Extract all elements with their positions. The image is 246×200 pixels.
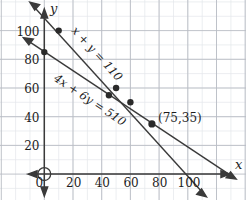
x-tick-label: 60 <box>123 176 138 190</box>
x-tick-label: 80 <box>152 176 167 190</box>
x-tick-label: 100 <box>178 176 201 190</box>
y-tick-label: 40 <box>24 111 39 125</box>
y-axis-label: y <box>49 1 58 16</box>
x-tick-label: 40 <box>95 176 110 190</box>
intersection-marker <box>148 120 155 127</box>
y-tick-label: 60 <box>24 82 39 96</box>
y-tick-label: 20 <box>24 139 39 153</box>
point-marker <box>56 27 62 33</box>
x-tick-label: 20 <box>66 176 81 190</box>
y-tick-label: 80 <box>24 53 39 67</box>
point-marker <box>113 85 119 91</box>
x-tick-label: 0 <box>36 176 44 190</box>
graph-figure: 0 20 40 60 80 100 20 40 60 80 100 y x x … <box>0 0 246 200</box>
point-marker <box>106 92 112 98</box>
point-marker <box>41 49 47 55</box>
y-tick-label: 100 <box>17 25 40 39</box>
intersection-label: (75,35) <box>158 111 202 125</box>
x-axis-label: x <box>235 157 243 172</box>
coordinate-plane-svg: 0 20 40 60 80 100 20 40 60 80 100 y x x … <box>0 0 246 200</box>
point-marker <box>127 99 133 105</box>
x-tick-labels: 0 20 40 60 80 100 <box>36 176 201 190</box>
